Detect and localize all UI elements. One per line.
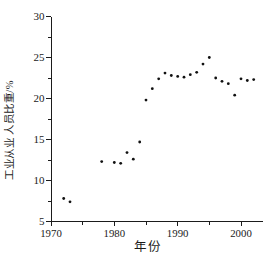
data-point <box>170 74 173 77</box>
axis-ticks <box>46 17 241 227</box>
x-axis-title: 年份 <box>134 240 162 254</box>
data-point <box>202 63 205 66</box>
data-point <box>246 79 249 82</box>
data-point <box>240 77 243 80</box>
y-tick-label: 15 <box>34 133 46 145</box>
data-point <box>69 200 72 203</box>
y-tick-label: 10 <box>34 174 46 186</box>
data-point <box>183 76 186 79</box>
chart-svg: 510152025301970198019902000 年份 工业从业 人员比重… <box>0 0 274 270</box>
data-point <box>138 141 141 144</box>
data-point <box>126 151 129 154</box>
data-point <box>189 73 192 76</box>
data-point <box>151 87 154 90</box>
data-point <box>195 71 198 74</box>
y-tick-label: 25 <box>34 51 46 63</box>
data-point <box>100 160 103 163</box>
data-point <box>62 197 65 200</box>
y-tick-label: 5 <box>39 215 45 227</box>
data-point <box>214 77 217 80</box>
data-point <box>176 75 179 78</box>
axis-tick-labels: 510152025301970198019902000 <box>34 10 252 238</box>
x-tick-label: 1990 <box>167 227 189 239</box>
data-point <box>132 158 135 161</box>
data-point <box>227 82 230 85</box>
x-tick-label: 2000 <box>230 227 252 239</box>
scatter-chart-figure: 510152025301970198019902000 年份 工业从业 人员比重… <box>0 0 274 270</box>
y-tick-label: 30 <box>34 10 46 22</box>
y-tick-label: 20 <box>34 92 46 104</box>
data-point <box>164 72 167 75</box>
data-point <box>113 161 116 164</box>
data-point <box>221 80 224 83</box>
data-point <box>119 162 122 165</box>
data-points <box>62 56 255 203</box>
data-point <box>145 99 148 102</box>
x-tick-label: 1970 <box>40 227 62 239</box>
x-tick-label: 1980 <box>104 227 126 239</box>
data-point <box>157 77 160 80</box>
data-point <box>252 78 255 81</box>
data-point <box>233 94 236 97</box>
y-axis-title: 工业从业 人员比重/% <box>3 80 15 180</box>
axes <box>51 17 263 222</box>
data-point <box>208 56 211 59</box>
